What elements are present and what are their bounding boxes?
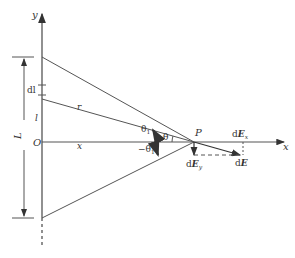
point-P-label: P	[194, 127, 202, 138]
dE-label: dE	[235, 158, 248, 168]
dEy-label: dEy	[186, 159, 203, 171]
x-axis-label: x	[283, 141, 289, 152]
diagram-canvas: y x O L dl l r x P θ1 θ −θ1 dEx dEy dE	[0, 0, 295, 258]
dEx-label: dEx	[232, 129, 249, 140]
bottom-end-line	[42, 142, 194, 218]
dl-label: dl	[27, 85, 36, 95]
neg-theta1-arrow	[156, 149, 158, 155]
y-axis-label: y	[31, 9, 38, 20]
theta-arc	[172, 136, 173, 142]
r-label: r	[77, 102, 82, 112]
theta-label: θ	[163, 132, 168, 142]
theta1-label: θ1	[141, 124, 150, 135]
x-distance-label: x	[77, 141, 82, 151]
top-end-line	[42, 57, 194, 142]
l-label: l	[35, 113, 38, 123]
r-line	[42, 99, 194, 142]
origin-label: O	[33, 137, 41, 148]
line-charge-field-diagram: y x O L dl l r x P θ1 θ −θ1 dEx dEy dE	[0, 0, 295, 258]
dE-vector	[194, 142, 240, 155]
length-label: L	[12, 132, 23, 140]
neg-theta1-label: −θ1	[138, 144, 155, 155]
